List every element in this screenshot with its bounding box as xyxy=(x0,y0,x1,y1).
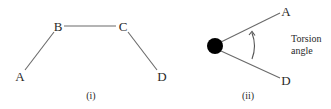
panel-caption-ii: (ii) xyxy=(242,90,254,102)
bond-center-a xyxy=(221,13,280,42)
atom-label-b: B xyxy=(54,19,63,34)
atom-label-c: C xyxy=(119,19,128,34)
atom-label-d: D xyxy=(157,69,166,84)
panel-caption-i: (i) xyxy=(86,90,95,102)
torsion-angle-diagram: A B C D (i) A D Torsion angle (ii) xyxy=(0,0,331,109)
panel-ii: A D Torsion angle (ii) xyxy=(207,4,321,102)
bond-center-d xyxy=(221,51,280,78)
torsion-angle-label-line1: Torsion xyxy=(291,33,321,44)
atom-label-a: A xyxy=(281,4,291,19)
atom-label-a: A xyxy=(15,69,25,84)
panel-i: A B C D (i) xyxy=(15,19,166,102)
atom-label-d: D xyxy=(281,73,290,88)
bond-a-b xyxy=(25,32,54,70)
torsion-arc xyxy=(252,33,255,59)
bond-c-d xyxy=(128,32,157,70)
torsion-angle-label-line2: angle xyxy=(291,45,313,56)
central-bond-dot xyxy=(207,38,223,54)
